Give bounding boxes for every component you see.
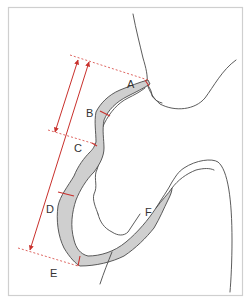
label-c: C: [74, 142, 82, 154]
label-b: B: [86, 107, 93, 119]
label-f: F: [145, 206, 152, 218]
anatomical-diagram: A B C D E F: [0, 0, 251, 302]
label-d: D: [46, 203, 54, 215]
label-a: A: [127, 78, 135, 90]
label-e: E: [50, 267, 57, 279]
